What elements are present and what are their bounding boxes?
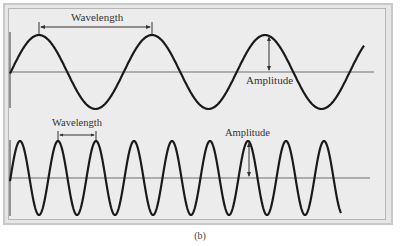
arrowhead-left-icon	[59, 134, 63, 137]
arrowhead-right-icon	[146, 25, 151, 29]
amplitude-label-bottom: Amplitude	[225, 127, 270, 138]
amplitude-label-top: Amplitude	[246, 74, 293, 86]
arrowhead-right-icon	[91, 134, 95, 137]
wavelength-label-top: Wavelength	[71, 11, 123, 23]
wavelength-label-bottom: Wavelength	[52, 117, 102, 128]
arrowhead-down-icon	[247, 172, 251, 177]
arrowhead-down-icon	[267, 66, 271, 71]
figure-caption: (b)	[0, 230, 400, 241]
arrowhead-left-icon	[40, 25, 45, 29]
